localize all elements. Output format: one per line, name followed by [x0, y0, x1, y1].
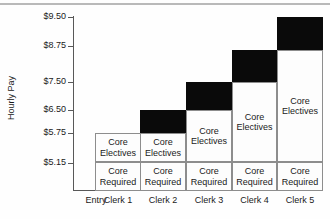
y-axis-line: [73, 16, 74, 191]
cell-clerk3-core-required: Core Required: [186, 162, 232, 191]
cell-line-1: Core: [236, 112, 272, 123]
cell-line-1: Core: [145, 166, 182, 177]
y-tick-mark-3: [68, 110, 74, 111]
cell-line-2: Electives: [145, 148, 181, 159]
y-tick-label-wrap-4: $5.75: [26, 128, 66, 138]
cell-line-2: Electives: [100, 148, 136, 159]
cell-line-1: Core: [191, 126, 227, 137]
cell-clerk2-core-required: Core Required: [140, 162, 186, 191]
cell-line-2: Electives: [236, 122, 272, 133]
y-tick-label-2: $7.50: [30, 77, 66, 86]
x-label-clerk-2: Clerk 2: [140, 195, 186, 205]
increment-block-clerk5: [277, 17, 323, 51]
cell-line-1: Core: [191, 166, 228, 177]
cell-line-2: Required: [236, 177, 273, 188]
x-label-clerk-5: Clerk 5: [277, 195, 323, 205]
cell-clerk1-core-electives: Core Electives: [95, 133, 141, 162]
x-label-clerk-3: Clerk 3: [186, 195, 232, 205]
y-tick-label-4: $5.75: [30, 128, 66, 137]
cell-line-1: Core: [282, 166, 319, 177]
y-tick-label-wrap-1: $8.75: [26, 41, 66, 51]
y-tick-mark-2: [68, 82, 74, 83]
y-tick-label-wrap-0: $9.50: [26, 12, 66, 22]
y-tick-label-5: $5.15: [30, 158, 66, 167]
cell-clerk4-core-required: Core Required: [232, 162, 277, 191]
increment-block-clerk4: [232, 50, 277, 83]
cell-line-1: Core: [236, 166, 273, 177]
y-tick-label-3: $6.50: [30, 105, 66, 114]
cell-line-2: Required: [282, 177, 319, 188]
cell-line-1: Core: [100, 137, 136, 148]
y-tick-label-0: $9.50: [30, 12, 66, 21]
y-tick-mark-5: [68, 163, 74, 164]
increment-block-clerk3: [186, 82, 232, 111]
cell-clerk1-core-required: Core Required: [95, 162, 141, 191]
top-divider-rule: [0, 3, 330, 5]
cell-line-2: Electives: [191, 136, 227, 147]
x-label-clerk-4: Clerk 4: [232, 195, 277, 205]
y-tick-mark-0: [68, 17, 74, 18]
cell-line-2: Required: [145, 177, 182, 188]
y-tick-label-1: $8.75: [30, 41, 66, 50]
cell-line-1: Core: [145, 137, 181, 148]
cell-clerk5-core-electives: Core Electives: [277, 50, 323, 162]
chart-canvas: Hourly Pay $9.50 $8.75 $7.50 $6.50 $5.75…: [0, 0, 330, 219]
cell-line-1: Core: [100, 166, 137, 177]
cell-clerk5-core-required: Core Required: [277, 162, 323, 191]
y-tick-label-wrap-2: $7.50: [26, 77, 66, 87]
cell-clerk2-core-electives: Core Electives: [140, 133, 186, 162]
cell-line-2: Electives: [282, 106, 318, 117]
y-tick-mark-4: [68, 133, 74, 134]
increment-block-clerk2: [140, 110, 186, 134]
y-tick-label-wrap-3: $6.50: [26, 105, 66, 115]
cell-line-1: Core: [282, 96, 318, 107]
cell-clerk4-core-electives: Core Electives: [232, 82, 277, 162]
x-label-clerk-1: Clerk 1: [95, 195, 141, 205]
y-axis-title: Hourly Pay: [6, 68, 16, 128]
cell-clerk3-core-electives: Core Electives: [186, 110, 232, 162]
cell-line-2: Required: [100, 177, 137, 188]
y-tick-label-wrap-5: $5.15: [26, 158, 66, 168]
y-tick-mark-1: [68, 46, 74, 47]
cell-line-2: Required: [191, 177, 228, 188]
